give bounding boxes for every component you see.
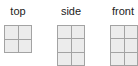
grid-cell xyxy=(5,40,18,53)
grid-cell xyxy=(19,40,32,53)
view-grid-front xyxy=(110,25,138,66)
grid-cell xyxy=(111,53,124,65)
view-grid-top xyxy=(4,25,32,53)
grid-cell xyxy=(72,39,85,51)
grid-cell xyxy=(125,53,138,65)
view-grid-side xyxy=(57,25,85,66)
view-label-top: top xyxy=(4,5,32,17)
grid-cell xyxy=(72,53,85,65)
grid-cell xyxy=(125,39,138,51)
grid-cell xyxy=(125,26,138,38)
grid-cell xyxy=(58,39,71,51)
grid-cell xyxy=(58,53,71,65)
grid-cell xyxy=(111,39,124,51)
orthographic-views-diagram: top side front xyxy=(0,0,138,66)
grid-cell xyxy=(5,26,18,39)
grid-cell xyxy=(111,26,124,38)
grid-cell xyxy=(72,26,85,38)
grid-cell xyxy=(19,26,32,39)
view-label-side: side xyxy=(57,5,85,17)
grid-cell xyxy=(58,26,71,38)
view-label-front: front xyxy=(108,5,138,17)
